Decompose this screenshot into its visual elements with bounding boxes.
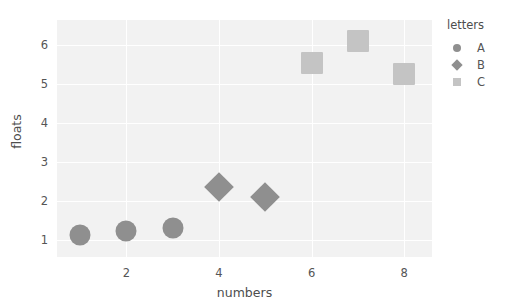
y-tick-label: 6	[8, 38, 57, 52]
legend-entries: ABC	[447, 39, 505, 90]
gridline-horizontal	[57, 162, 432, 163]
legend-entry-a[interactable]: A	[447, 39, 505, 56]
x-tick-label: 8	[401, 266, 408, 280]
square-marker-icon	[453, 78, 461, 86]
gridline-horizontal	[57, 240, 432, 241]
gridline-horizontal	[57, 84, 432, 85]
legend-swatch-container	[447, 78, 467, 86]
y-tick-label: 2	[8, 194, 57, 208]
x-tick-label: 6	[308, 266, 315, 280]
data-point-c	[393, 63, 415, 85]
gridline-horizontal	[57, 201, 432, 202]
y-tick-label: 1	[8, 233, 57, 247]
data-point-a	[70, 224, 91, 245]
x-tick-label: 4	[215, 266, 222, 280]
gridline-vertical	[219, 20, 220, 257]
legend-label: A	[477, 41, 485, 55]
legend-swatch-container	[447, 61, 467, 69]
circle-marker-icon	[453, 44, 461, 52]
legend-entry-c[interactable]: C	[447, 73, 505, 90]
data-point-b	[250, 182, 280, 212]
data-point-c	[347, 30, 369, 52]
legend-entry-b[interactable]: B	[447, 56, 505, 73]
x-tick-label: 2	[123, 266, 130, 280]
legend-label: C	[477, 75, 485, 89]
legend-label: B	[477, 58, 485, 72]
data-point-a	[162, 217, 183, 238]
gridline-horizontal	[57, 45, 432, 46]
data-point-c	[301, 52, 323, 74]
plot-area	[57, 20, 432, 257]
x-axis-ticks: 2468	[0, 266, 505, 282]
diamond-marker-icon	[451, 59, 462, 70]
legend-swatch-container	[447, 44, 467, 52]
data-point-a	[116, 221, 137, 242]
legend: letters ABC	[447, 18, 505, 90]
data-point-b	[204, 172, 234, 202]
gridline-vertical	[404, 20, 405, 257]
legend-title: letters	[447, 18, 505, 32]
scatter-plot-figure: 123456 2468 numbers floats letters ABC	[0, 0, 505, 307]
gridline-horizontal	[57, 123, 432, 124]
x-axis-title: numbers	[57, 285, 432, 300]
y-axis-title: floats	[9, 72, 24, 192]
